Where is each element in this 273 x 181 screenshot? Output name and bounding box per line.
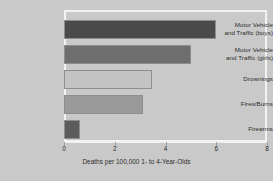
bar-chart-figure: Deaths per 100,000 1- to 4-Year-Olds Mot… bbox=[0, 0, 273, 181]
x-tick-label: 4 bbox=[158, 145, 174, 152]
category-label-line: Firearms bbox=[211, 125, 273, 133]
category-label: Motor Vehicleand Traffic (boys) bbox=[211, 21, 273, 36]
category-label: Motor Vehicleand Traffic (girls) bbox=[211, 46, 273, 61]
category-label-line: Drownings bbox=[211, 75, 273, 83]
x-tick-label: 2 bbox=[107, 145, 123, 152]
bar bbox=[64, 45, 191, 64]
bar bbox=[64, 95, 143, 114]
category-label-line: Motor Vehicle bbox=[211, 46, 273, 54]
category-label: Drownings bbox=[211, 75, 273, 83]
category-label-line: and Traffic (boys) bbox=[211, 29, 273, 37]
x-tick-label: 8 bbox=[259, 145, 273, 152]
category-label: Fires/Burns bbox=[211, 100, 273, 108]
bar bbox=[64, 120, 80, 139]
category-label-line: Fires/Burns bbox=[211, 100, 273, 108]
bar bbox=[64, 70, 152, 89]
x-tick-label: 0 bbox=[56, 145, 72, 152]
category-label-line: and Traffic (girls) bbox=[211, 54, 273, 62]
bar bbox=[64, 20, 216, 39]
category-label: Firearms bbox=[211, 125, 273, 133]
category-label-line: Motor Vehicle bbox=[211, 21, 273, 29]
x-axis-title: Deaths per 100,000 1- to 4-Year-Olds bbox=[0, 158, 273, 165]
x-tick-label: 6 bbox=[208, 145, 224, 152]
